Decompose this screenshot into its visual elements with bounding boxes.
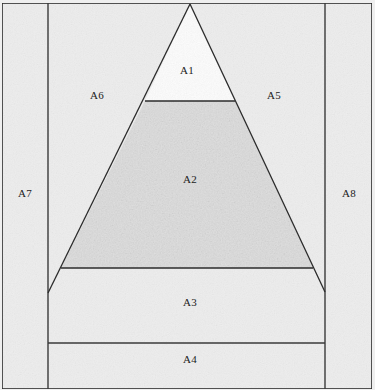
triangle-partition-diagram: A1 A2 A3 A4 A5 A6 A7 A8 [0,0,375,390]
region-label-a6: A6 [90,89,104,101]
diagram-canvas: A1 A2 A3 A4 A5 A6 A7 A8 [0,0,375,390]
region-label-a8: A8 [342,187,356,199]
region-label-a2: A2 [183,173,197,185]
region-label-a7: A7 [18,187,32,199]
region-label-a1: A1 [180,64,194,76]
region-label-a4: A4 [183,353,197,365]
region-label-a3: A3 [183,296,197,308]
region-label-a5: A5 [267,89,281,101]
